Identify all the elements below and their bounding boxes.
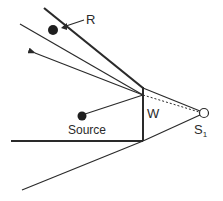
image-source-label: S1 (194, 122, 208, 139)
image-source-circle (200, 109, 209, 118)
diagram-canvas: R Source W S1 (0, 0, 223, 201)
wall-label: W (147, 106, 160, 121)
thin-ray-line (20, 24, 143, 95)
source-dot (78, 112, 87, 121)
source-ray-line (82, 95, 143, 115)
lower-diagonal-line (22, 141, 143, 190)
source-label: Source (68, 123, 106, 137)
receiver-label: R (86, 12, 95, 27)
receiver-dot (48, 25, 58, 35)
image-source-subscript: 1 (203, 130, 208, 139)
